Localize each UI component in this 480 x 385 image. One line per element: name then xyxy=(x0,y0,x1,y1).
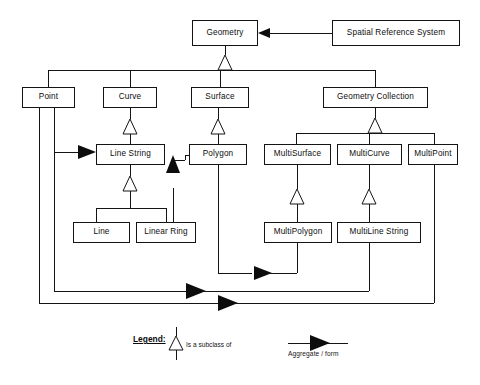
node-label: MultiPoint xyxy=(414,150,451,158)
legend-aggregate-arrow xyxy=(310,335,330,351)
node-label: MultiLine String xyxy=(350,228,409,236)
legend-subclass-triangle xyxy=(169,336,183,350)
legend-aggregate-label: Aggregate / form xyxy=(288,350,339,357)
node-multipolygon[interactable]: MultiPolygon xyxy=(264,222,332,243)
node-label: Curve xyxy=(119,93,142,101)
aggregate-arrow-point-to-multipoint xyxy=(218,295,238,311)
node-linear-ring[interactable]: Linear Ring xyxy=(136,222,196,243)
node-point[interactable]: Point xyxy=(22,87,75,108)
node-multisurface[interactable]: MultiSurface xyxy=(264,144,331,165)
class-diagram: Geometry Spatial Reference System Point … xyxy=(0,0,480,385)
node-polygon[interactable]: Polygon xyxy=(189,144,247,165)
aggregate-arrow-polygon-to-multipolygon xyxy=(254,266,272,280)
node-label: Spatial Reference System xyxy=(347,29,445,37)
legend-subclass-label: Is a subclass of xyxy=(186,341,231,348)
node-label: MultiSurface xyxy=(274,150,321,158)
aggregate-arrow-linearring-to-polygon xyxy=(166,155,180,173)
node-label: Linear Ring xyxy=(144,228,188,236)
aggregate-arrow-point-to-linestring xyxy=(78,145,96,159)
node-label: Polygon xyxy=(203,150,234,158)
node-multiline-string[interactable]: MultiLine String xyxy=(337,222,421,243)
node-label: Geometry Collection xyxy=(337,93,414,101)
node-curve[interactable]: Curve xyxy=(103,87,157,108)
subclass-triangle-geometry xyxy=(218,55,232,70)
node-geometry[interactable]: Geometry xyxy=(192,20,258,46)
node-label: MultiCurve xyxy=(349,150,390,158)
node-label: Point xyxy=(39,93,58,101)
node-label: Line xyxy=(93,228,109,236)
node-multipoint[interactable]: MultiPoint xyxy=(408,144,458,165)
node-label: Line String xyxy=(110,150,151,158)
node-geometry-collection[interactable]: Geometry Collection xyxy=(323,87,428,108)
subclass-triangle-multisurface xyxy=(290,189,304,204)
node-label: Geometry xyxy=(206,29,243,37)
node-surface[interactable]: Surface xyxy=(191,87,249,108)
subclass-triangle-curve xyxy=(123,119,137,134)
node-line[interactable]: Line xyxy=(73,222,130,243)
diagram-connectors xyxy=(0,0,480,385)
node-line-string[interactable]: Line String xyxy=(96,144,165,165)
node-label: Surface xyxy=(205,93,234,101)
subclass-triangle-surface xyxy=(211,119,225,134)
node-multicurve[interactable]: MultiCurve xyxy=(337,144,402,165)
node-spatial-reference-system[interactable]: Spatial Reference System xyxy=(332,20,460,46)
subclass-triangle-linestring xyxy=(123,176,137,191)
aggregate-arrow-srs-to-geometry xyxy=(258,28,270,38)
legend-title: Legend: xyxy=(133,334,166,344)
subclass-triangle-geomcoll xyxy=(368,118,382,133)
aggregate-arrow-point-to-multilinestring xyxy=(186,283,206,299)
node-label: MultiPolygon xyxy=(274,228,323,236)
subclass-triangle-multicurve xyxy=(362,189,376,204)
